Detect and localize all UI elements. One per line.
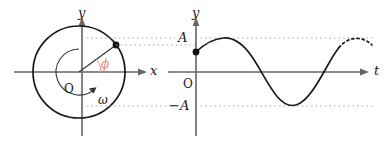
left-x-axis (14, 69, 147, 76)
right-origin-label: O (183, 78, 193, 90)
curve-start-point (193, 49, 200, 56)
physics-figure: y x O ϕ ω y t O A −A (0, 0, 385, 145)
phi-angle-label: ϕ (101, 58, 109, 70)
left-x-axis-label: x (150, 64, 157, 77)
right-y-axis (193, 17, 200, 136)
right-t-axis (168, 69, 369, 76)
omega-label: ω (98, 94, 108, 106)
negative-amplitude-label: −A (169, 99, 189, 112)
radius-vector (79, 45, 116, 72)
t-axis-label: t (374, 64, 379, 77)
left-origin-label: O (64, 83, 74, 95)
left-y-axis-label: y (78, 6, 85, 19)
sine-curve-continuation (339, 38, 372, 47)
figure-canvas (0, 0, 385, 145)
amplitude-label: A (178, 31, 187, 44)
right-y-axis-label: y (192, 6, 199, 19)
